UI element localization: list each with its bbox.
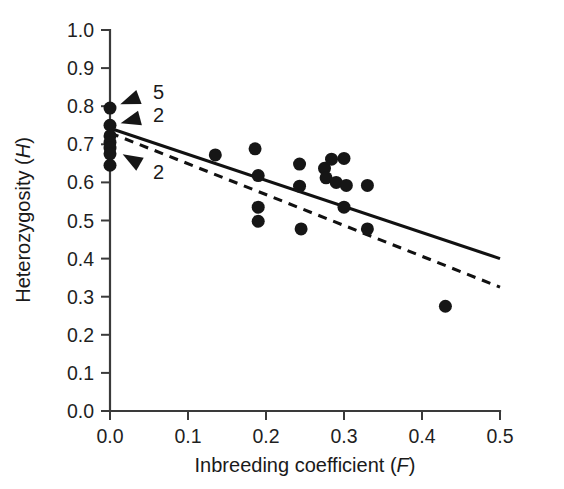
y-axis-ticks: 0.00.10.20.30.40.50.60.70.80.91.0 [67,19,110,422]
x-axis-ticks: 0.00.10.20.30.40.5 [96,411,513,447]
annotation-count-label: 2 [153,161,164,183]
count-annotations: 522 [120,81,164,183]
data-point [293,158,306,171]
y-tick-label: 0.5 [67,210,94,232]
scatter-plot-figure: 0.00.10.20.30.40.50.60.70.80.91.0 0.00.1… [0,0,564,489]
y-tick-label: 0.2 [67,324,94,346]
x-tick-label: 0.2 [252,425,279,447]
y-tick-label: 0.4 [67,248,94,270]
x-tick-label: 0.1 [174,425,201,447]
data-point [338,152,351,165]
y-tick-label: 0.7 [67,133,94,155]
data-point [340,179,353,192]
dashed-regression-line [110,133,500,287]
y-tick-label: 0.9 [67,57,94,79]
x-tick-label: 0.3 [330,425,357,447]
data-points [104,102,452,313]
data-point [293,180,306,193]
annotation-arrow-icon [121,111,142,125]
data-point [338,201,351,214]
y-tick-label: 0.3 [67,286,94,308]
solid-regression-line [110,128,500,258]
annotation-count-label: 2 [153,104,164,126]
axes-group [110,30,500,411]
y-tick-label: 0.6 [67,171,94,193]
data-point [252,201,265,214]
data-point [325,153,338,166]
x-axis-title: Inbreeding coefficient (F) [195,454,416,476]
data-point [209,148,222,161]
data-point [104,159,117,172]
data-point [361,179,374,192]
x-tick-label: 0.4 [408,425,435,447]
y-tick-label: 0.8 [67,95,94,117]
y-tick-label: 0.0 [67,400,94,422]
data-point [249,142,262,155]
data-point [104,147,117,160]
plot-svg: 0.00.10.20.30.40.50.60.70.80.91.0 0.00.1… [0,0,564,489]
annotation-count-label: 5 [153,81,164,103]
data-point [104,102,117,115]
annotation-arrow-icon [120,90,141,104]
regression-lines [110,128,500,287]
x-tick-label: 0.5 [486,425,513,447]
data-point [361,222,374,235]
x-tick-label: 0.0 [96,425,123,447]
y-tick-label: 0.1 [67,362,94,384]
data-point [439,300,452,313]
y-tick-label: 1.0 [67,19,94,41]
y-axis-title: Heterozygosity (H) [12,137,34,303]
annotation-arrow-icon [123,154,144,170]
data-point [252,215,265,228]
data-point [295,222,308,235]
data-point [252,169,265,182]
